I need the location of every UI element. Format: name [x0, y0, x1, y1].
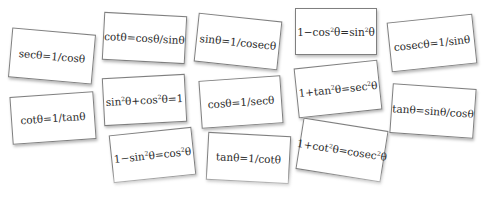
formula-text: secθ=1/cosθ — [18, 47, 86, 65]
identity-formula: sin2θ+cos2θ=1 — [105, 92, 183, 108]
formula-text: 1+cot — [296, 137, 329, 154]
identity-card-one-minus-sin2[interactable]: 1−sin2θ=cos2θ — [109, 127, 197, 183]
identity-card-sec[interactable]: secθ=1/cosθ — [8, 27, 96, 84]
identity-formula: secθ=1/cosθ — [18, 47, 86, 65]
formula-text: cotθ=1/tanθ — [20, 110, 86, 127]
formula-text: θ=sin — [334, 26, 365, 38]
formula-text: θ — [369, 26, 375, 38]
formula-text: θ=1 — [161, 92, 183, 105]
identity-card-cos-sec[interactable]: cosθ=1/secθ — [198, 75, 283, 129]
identity-card-pythag[interactable]: sin2θ+cos2θ=1 — [102, 74, 187, 126]
formula-text: 1+tan — [298, 84, 332, 99]
formula-text: sin — [105, 95, 121, 108]
formula-text: tanθ=sinθ/cosθ — [392, 102, 474, 120]
identity-card-one-plus-tan2[interactable]: 1+tan2θ=sec2θ — [294, 60, 383, 119]
formula-text: cosecθ=1/sinθ — [393, 33, 471, 53]
identity-card-one-minus-cos2[interactable]: 1−cos2θ=sin2θ — [295, 8, 377, 55]
formula-text: 1−cos — [297, 26, 330, 38]
identity-card-cosec[interactable]: cosecθ=1/sinθ — [387, 14, 478, 73]
formula-text: θ=sec — [334, 80, 368, 95]
identity-formula: 1−sin2θ=cos2θ — [113, 145, 192, 165]
identity-formula: tanθ=1/cotθ — [216, 150, 282, 165]
identity-card-tan-sin-cos[interactable]: tanθ=sinθ/cosθ — [389, 83, 476, 139]
identity-card-one-plus-cot2[interactable]: 1+cot2θ=cosec2θ — [295, 118, 388, 183]
identity-formula: cotθ=1/tanθ — [20, 110, 86, 127]
formula-text: θ+cos — [125, 93, 158, 107]
formula-text: sinθ=1/cosecθ — [199, 32, 277, 52]
identity-formula: cosecθ=1/sinθ — [393, 33, 471, 53]
identity-formula: cosθ=1/secθ — [207, 94, 274, 111]
identity-formula: 1+tan2θ=sec2θ — [298, 79, 378, 99]
identity-card-cot-tan[interactable]: cotθ=1/tanθ — [9, 91, 96, 145]
formula-text: cotθ=cosθ/sinθ — [104, 30, 185, 46]
identity-card-tan-cot[interactable]: tanθ=1/cotθ — [206, 132, 291, 184]
identity-formula: 1−cos2θ=sin2θ — [297, 26, 375, 38]
formula-text: θ=cosec — [332, 143, 378, 162]
formula-text: 1−sin — [113, 150, 145, 165]
identity-formula: sinθ=1/cosecθ — [199, 32, 277, 52]
formula-text: θ=cos — [148, 146, 182, 161]
identity-formula: 1+cot2θ=cosec2θ — [296, 137, 387, 163]
identity-formula: cotθ=cosθ/sinθ — [104, 30, 185, 46]
identity-formula: tanθ=sinθ/cosθ — [392, 102, 474, 120]
identity-card-cot-cos-sin[interactable]: cotθ=cosθ/sinθ — [102, 12, 187, 64]
formula-text: tanθ=1/cotθ — [216, 150, 282, 165]
formula-text: θ — [380, 150, 388, 163]
identity-card-sin-cosec[interactable]: sinθ=1/cosecθ — [194, 13, 283, 71]
formula-text: θ — [371, 79, 379, 92]
formula-text: cosθ=1/secθ — [207, 94, 274, 111]
formula-text: θ — [184, 145, 192, 158]
